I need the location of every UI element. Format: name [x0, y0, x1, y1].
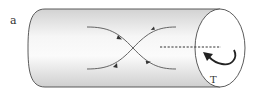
cylinder-body	[28, 9, 220, 87]
cylinder-end-cap	[195, 9, 245, 87]
torque-label: T	[210, 74, 217, 85]
panel-label: a	[10, 14, 17, 27]
diagram-figure: a T	[0, 0, 257, 93]
